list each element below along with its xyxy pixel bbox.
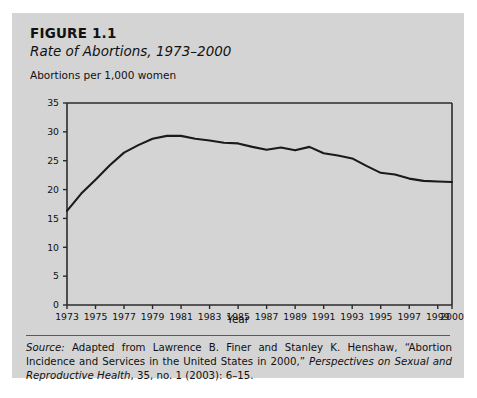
source-divider xyxy=(26,335,450,336)
abortion-rate-line xyxy=(67,136,452,211)
x-axis-title: Year xyxy=(12,313,464,325)
y-tick-label: 30 xyxy=(47,126,59,137)
source-text-part-2: , 35, no. 1 (2003): 6–15. xyxy=(131,370,254,381)
figure-panel: FIGURE 1.1 Rate of Abortions, 1973–2000 … xyxy=(12,13,464,378)
y-tick-label: 20 xyxy=(47,184,59,195)
y-tick-label: 5 xyxy=(53,270,59,281)
chart-plot-area: 0510152025303519731975197719791981198319… xyxy=(12,13,464,323)
line-chart: 0510152025303519731975197719791981198319… xyxy=(12,13,464,323)
y-tick-label: 25 xyxy=(47,155,59,166)
source-label: Source: xyxy=(26,342,65,353)
source-citation: Source: Adapted from Lawrence B. Finer a… xyxy=(26,341,452,383)
y-tick-label: 15 xyxy=(47,213,59,224)
y-tick-label: 0 xyxy=(53,299,59,310)
y-tick-label: 10 xyxy=(47,242,59,253)
y-tick-label: 35 xyxy=(47,97,59,108)
